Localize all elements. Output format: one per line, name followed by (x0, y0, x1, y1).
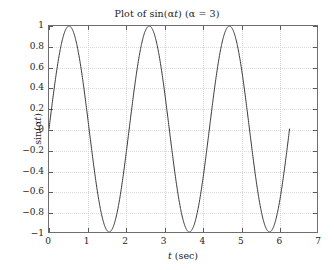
x-axis-tick-label: 5 (226, 236, 256, 246)
chart-title-eq: = 3) (195, 8, 219, 19)
y-axis-tick-label: −1 (4, 228, 44, 238)
x-axis-label-unit: (sec) (172, 250, 198, 261)
x-axis-tick-label: 2 (110, 236, 140, 246)
plot-area (48, 25, 318, 233)
y-axis-label-alpha: α (32, 121, 43, 127)
figure-canvas: Plot of sin(αt) (α = 3) 01234567 −1−0.8−… (0, 0, 334, 270)
y-axis-tick-label: 0.6 (4, 62, 44, 72)
y-axis-tick-label: 0.8 (4, 41, 44, 51)
y-axis-tick-label: −0.8 (4, 207, 44, 217)
x-axis-tick-label: 7 (303, 236, 333, 246)
x-axis-tick-label: 4 (187, 236, 217, 246)
y-axis-label-variable: t (32, 117, 43, 121)
chart-title-mid: ) ( (178, 8, 189, 19)
y-axis-label-prefix: sin( (32, 127, 43, 145)
x-axis-tick-label: 3 (149, 236, 179, 246)
x-axis-label: t (sec) (48, 250, 318, 261)
y-axis-tick-label: 1 (4, 20, 44, 30)
y-axis-tick-label: 0.4 (4, 82, 44, 92)
y-axis-tick-label: −0.6 (4, 186, 44, 196)
series-line-sin3t (49, 26, 317, 232)
y-axis-label-suffix: ) (32, 113, 43, 117)
x-axis-tick-label: 6 (264, 236, 294, 246)
y-axis-label: sin(αt) (32, 94, 43, 164)
chart-title-prefix: Plot of sin( (114, 8, 167, 19)
y-axis-tick-label: −0.4 (4, 166, 44, 176)
chart-title: Plot of sin(αt) (α = 3) (0, 8, 334, 19)
x-axis-tick-label: 1 (72, 236, 102, 246)
